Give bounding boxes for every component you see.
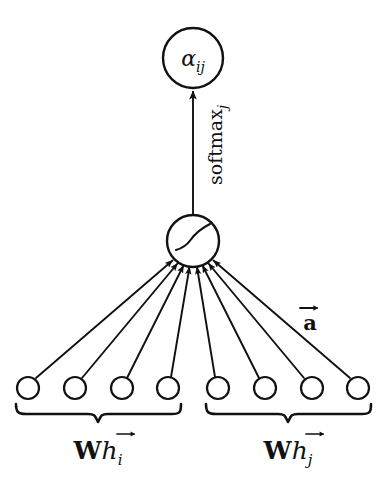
softmax-label-group: softmaxj <box>204 105 230 185</box>
input-node-left-1 <box>17 377 39 399</box>
attention-diagram: αij softmaxj a <box>0 0 390 485</box>
edge-group-left <box>36 261 190 379</box>
right-underbrace <box>206 404 371 422</box>
edge-right-2 <box>203 266 260 379</box>
alpha-subscript: ij <box>196 59 205 75</box>
hub-node-circle <box>167 215 219 267</box>
input-node-group-right <box>207 377 369 399</box>
gat-attention-svg: αij softmaxj a <box>0 0 390 485</box>
left-brace-label-group: Whi <box>73 431 136 469</box>
input-node-right-3 <box>301 377 323 399</box>
edge-right-4 <box>214 261 351 379</box>
left-underbrace <box>16 404 181 422</box>
attention-vector-letter: a <box>303 310 317 335</box>
input-node-group-left <box>17 377 179 399</box>
attention-vector-label-group: a <box>300 305 318 335</box>
edge-left-2 <box>82 264 178 379</box>
edge-right-3 <box>209 264 305 379</box>
alpha-glyph: α <box>181 46 196 71</box>
input-node-left-2 <box>64 377 86 399</box>
vector-arrow-head-right <box>320 431 325 436</box>
svg-text:Whj: Whj <box>263 436 313 469</box>
svg-text:Whi: Whi <box>73 436 123 469</box>
vector-arrow-head-left <box>131 431 136 436</box>
edge-left-1 <box>36 261 173 379</box>
left-vector-letter: h <box>102 436 118 465</box>
input-node-left-4 <box>157 377 179 399</box>
left-matrix-letter: W <box>73 436 103 465</box>
edge-left-3 <box>127 266 184 379</box>
edge-group-right <box>197 261 350 379</box>
right-vector-letter: h <box>292 436 308 465</box>
right-matrix-letter: W <box>263 436 293 465</box>
svg-text:softmaxj: softmaxj <box>204 105 230 185</box>
input-node-left-3 <box>111 377 133 399</box>
left-vector-subscript: i <box>118 451 123 469</box>
right-brace-label-group: Whj <box>263 431 325 469</box>
input-node-right-4 <box>347 377 369 399</box>
input-node-right-1 <box>207 377 229 399</box>
softmax-label-text: softmax <box>204 109 226 185</box>
input-node-right-2 <box>254 377 276 399</box>
